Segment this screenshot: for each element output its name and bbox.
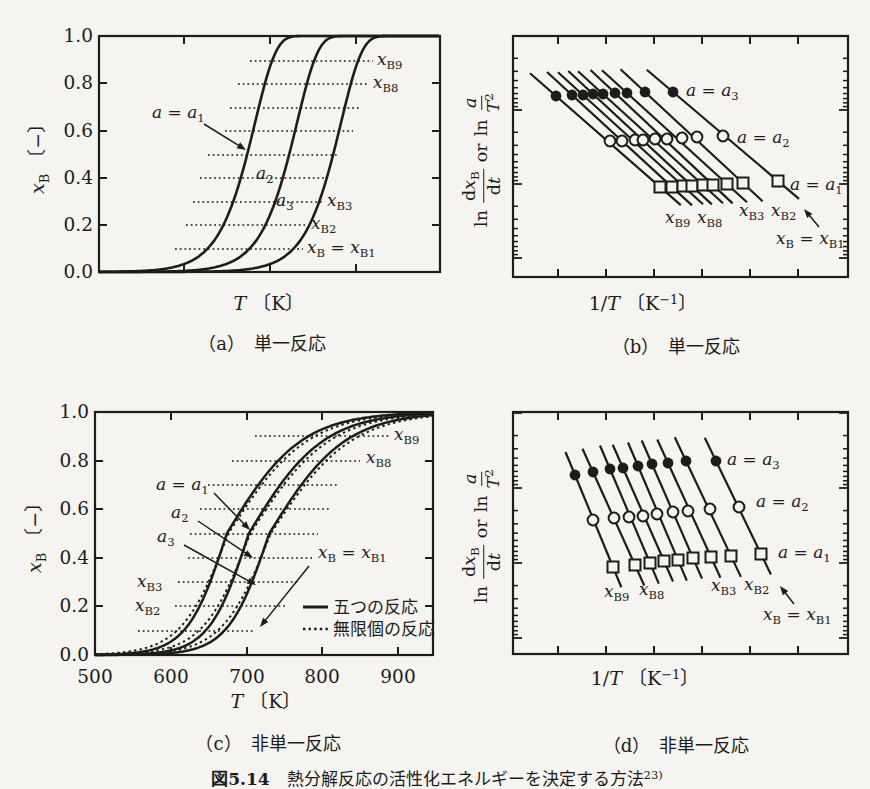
figure-caption-text: 熱分解反応の活性化エネルギーを決定する方法 bbox=[270, 769, 644, 789]
panel-d-marker-open-square bbox=[756, 549, 767, 560]
panel-d-curve-label: xB2 bbox=[744, 576, 769, 596]
panel-b-marker-open-circle bbox=[638, 135, 649, 146]
panel-d-curve-label: xB9 bbox=[604, 583, 629, 603]
panel-d-marker-open-circle bbox=[652, 509, 663, 520]
panel-d-marker-open-square bbox=[659, 556, 670, 567]
panel-c-ytick-label: 0.4 bbox=[60, 549, 89, 568]
panel-b-curve-label: xB = xB1 bbox=[776, 230, 845, 250]
panel-c-arrow bbox=[198, 521, 249, 555]
panel-d-marker-filled-circle bbox=[663, 458, 674, 469]
panel-d-marker-open-circle bbox=[588, 515, 599, 526]
panel-d-marker-open-square bbox=[673, 555, 684, 566]
panel-c-ytick-label: 0.0 bbox=[60, 646, 89, 665]
panel-a-arrow-head bbox=[237, 142, 246, 150]
panel-c-curve-label: xB3 bbox=[137, 573, 162, 593]
panel-c-x-axis-title: T 〔K〕 bbox=[231, 692, 302, 711]
panel-d-marker-open-square bbox=[726, 551, 737, 562]
panel-a-ytick-label: 0.8 bbox=[64, 74, 93, 93]
figure-caption-reference: 23) bbox=[644, 768, 663, 782]
panel-a-ytick-label: 0.2 bbox=[64, 216, 93, 235]
panel-b-curve-label: a = a2 bbox=[737, 129, 790, 149]
panel-c-ytick-label: 0.2 bbox=[60, 597, 89, 616]
panel-b-curve-label: xB9 bbox=[665, 209, 690, 229]
panel-c-ytick-label: 0.8 bbox=[60, 452, 89, 471]
panel-a-curve-label: xB8 bbox=[373, 74, 398, 94]
panel-a-ytick-label: 0.6 bbox=[64, 122, 93, 141]
panel-d-marker-open-square bbox=[706, 552, 717, 563]
panel-d-marker-open-circle bbox=[734, 502, 745, 513]
panel-d-marker-open-circle bbox=[609, 513, 620, 524]
panel-d-marker-open-square bbox=[645, 558, 656, 569]
panel-d-curve-label: a = a1 bbox=[778, 544, 831, 564]
panel-d-marker-open-circle bbox=[683, 506, 694, 517]
panel-d-curve-label: xB8 bbox=[639, 581, 664, 601]
panel-d-y-axis-title: lndxBdtorlnaT2 bbox=[460, 469, 504, 603]
panel-b-x-axis-title: 1/T 〔K−1〕 bbox=[589, 294, 697, 313]
panel-c-curve-label: xB2 bbox=[135, 597, 160, 617]
panel-c-curve-label: xB8 bbox=[366, 449, 391, 469]
panel-b-curve-label: xB8 bbox=[697, 209, 722, 229]
panel-b-marker-filled-circle bbox=[551, 91, 562, 102]
panel-c-xtick-label: 700 bbox=[229, 668, 264, 687]
panel-c-curve-label: a3 bbox=[157, 528, 175, 548]
panel-b-marker-open-circle bbox=[617, 136, 628, 147]
legend-label-infinite-reactions: 無限個の反応 bbox=[333, 621, 435, 638]
panel-d-marker-open-circle bbox=[668, 507, 679, 518]
panel-a-curve-label: a3 bbox=[276, 192, 294, 212]
panel-d-marker-open-circle bbox=[638, 511, 649, 522]
figure-caption: 図5.14 熱分解反応の活性化エネルギーを決定する方法23) bbox=[211, 770, 663, 788]
panel-c-ytick-label: 1.0 bbox=[60, 403, 89, 422]
panel-b-marker-filled-circle bbox=[640, 87, 651, 98]
panel-d-marker-open-square bbox=[630, 560, 641, 571]
panel-a-curve-label: a2 bbox=[256, 165, 274, 185]
panel-b-curve-label: a = a3 bbox=[686, 82, 739, 102]
panel-d-marker-filled-circle bbox=[681, 456, 692, 467]
panel-a-curve-label: xB9 bbox=[377, 51, 402, 71]
panel-a-curve-label: a = a1 bbox=[152, 104, 205, 124]
panel-c-curve-label: a2 bbox=[171, 504, 189, 524]
panel-c-xtick-label: 500 bbox=[77, 668, 112, 687]
panel-c-xtick-label: 900 bbox=[380, 668, 415, 687]
panel-a-ytick-label: 0.0 bbox=[64, 263, 93, 282]
panel-b-marker-open-square bbox=[655, 182, 666, 193]
panel-b-marker-filled-circle bbox=[567, 90, 578, 101]
panel-d-marker-filled-circle bbox=[647, 459, 658, 470]
panel-b-marker-open-circle bbox=[605, 136, 616, 147]
panel-c-ytick-label: 0.6 bbox=[60, 500, 89, 519]
panel-b-marker-open-circle bbox=[662, 134, 673, 145]
panel-b-marker-filled-circle bbox=[668, 87, 679, 98]
panel-c-xtick-label: 800 bbox=[304, 668, 339, 687]
panel-a-caption: （a） 単一反応 bbox=[198, 335, 326, 353]
panel-b-marker-open-square bbox=[708, 180, 719, 191]
panel-d-curve-label: a = a2 bbox=[756, 493, 809, 513]
panel-d-marker-filled-circle bbox=[618, 463, 629, 474]
panel-a-curve-label: xB2 bbox=[311, 215, 336, 235]
panel-d-marker-filled-circle bbox=[605, 464, 616, 475]
panel-a-ytick-label: 1.0 bbox=[64, 27, 93, 46]
panel-d-marker-open-square bbox=[608, 562, 619, 573]
panel-b-y-axis-title: lndxBdtorlnaT2 bbox=[460, 93, 504, 227]
panel-d-curve-label: xB3 bbox=[711, 577, 736, 597]
panel-d-marker-filled-circle bbox=[588, 467, 599, 478]
panel-b-marker-open-square bbox=[687, 181, 698, 192]
panel-b-marker-open-square bbox=[722, 179, 733, 190]
panel-b-marker-filled-circle bbox=[598, 89, 609, 100]
legend-label-five-reactions: 五つの反応 bbox=[333, 599, 418, 616]
panel-d-marker-filled-circle bbox=[633, 461, 644, 472]
panel-d-curve-label: a = a3 bbox=[727, 451, 780, 471]
panel-d-marker-filled-circle bbox=[711, 456, 722, 467]
panel-a-ytick-label: 0.4 bbox=[64, 169, 93, 188]
panel-d-marker-open-square bbox=[688, 553, 699, 564]
panel-c-xtick-label: 600 bbox=[153, 668, 188, 687]
panel-b-marker-open-circle bbox=[650, 134, 661, 145]
panel-b-marker-open-circle bbox=[692, 132, 703, 143]
panel-c-y-axis-title: xB 〔−〕 bbox=[25, 493, 48, 573]
figure-caption-number: 図5.14 bbox=[211, 769, 269, 789]
panel-c-curve-label: xB = xB1 bbox=[318, 544, 387, 564]
panel-b-curve-label: xB2 bbox=[771, 202, 796, 222]
panel-d-marker-open-circle bbox=[705, 504, 716, 515]
panel-c-arrow-head bbox=[244, 550, 253, 558]
panel-b-curve-label: a = a1 bbox=[790, 176, 843, 196]
